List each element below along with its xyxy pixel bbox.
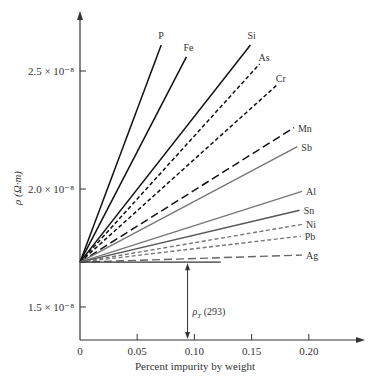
x-tick-label: 0.05 <box>128 345 148 357</box>
rho-t-annotation: ρT (293) <box>80 262 225 339</box>
x-tick-label: 0.20 <box>299 345 319 357</box>
series-label-al: Al <box>306 186 316 197</box>
series-label-ni: Ni <box>306 219 316 230</box>
y-tick-label: 2.0 × 10⁻⁸ <box>28 183 74 195</box>
series-line-mn <box>80 128 294 263</box>
series-line-al <box>80 191 302 262</box>
y-tick-label: 2.5 × 10⁻⁸ <box>28 65 74 77</box>
series-label-pb: Pb <box>305 231 316 242</box>
series-label-sb: Sb <box>301 142 312 153</box>
y-tick-label: 1.5 × 10⁻⁸ <box>28 301 74 313</box>
y-axis-label: ρ (Ω·m) <box>11 171 24 206</box>
series-line-as <box>80 64 260 262</box>
series-line-si <box>80 45 250 262</box>
series-label-si: Si <box>247 30 256 41</box>
x-axis <box>80 337 365 343</box>
y-ticks: 1.5 × 10⁻⁸2.0 × 10⁻⁸2.5 × 10⁻⁸ <box>28 65 86 313</box>
series-label-sn: Sn <box>304 205 315 216</box>
series-line-sn <box>80 210 300 262</box>
arrow-up-icon <box>185 263 190 270</box>
series-label-p: P <box>158 30 164 41</box>
x-axis-label: Percent impurity by weight <box>135 360 255 372</box>
y-axis-arrow-icon <box>77 11 83 20</box>
x-tick-label: 0 <box>77 345 83 357</box>
x-tick-label: 0.15 <box>242 345 262 357</box>
series-label-mn: Mn <box>298 123 312 134</box>
y-axis <box>77 11 83 340</box>
rho-t-label: ρT (293) <box>192 306 226 320</box>
x-tick-label: 0.10 <box>185 345 205 357</box>
series-label-cr: Cr <box>276 73 287 84</box>
x-axis-arrow-icon <box>356 337 365 343</box>
series-label-ag: Ag <box>306 250 318 261</box>
series-label-as: As <box>259 52 270 63</box>
x-ticks: 00.050.100.150.20 <box>77 334 319 357</box>
series-lines <box>80 45 302 262</box>
series-label-fe: Fe <box>183 42 194 53</box>
series-line-fe <box>80 57 186 262</box>
resistivity-chart: 00.050.100.150.20 1.5 × 10⁻⁸2.0 × 10⁻⁸2.… <box>0 0 381 378</box>
arrow-down-icon <box>185 332 190 339</box>
series-line-ni <box>80 224 302 262</box>
series-line-p <box>80 45 161 262</box>
